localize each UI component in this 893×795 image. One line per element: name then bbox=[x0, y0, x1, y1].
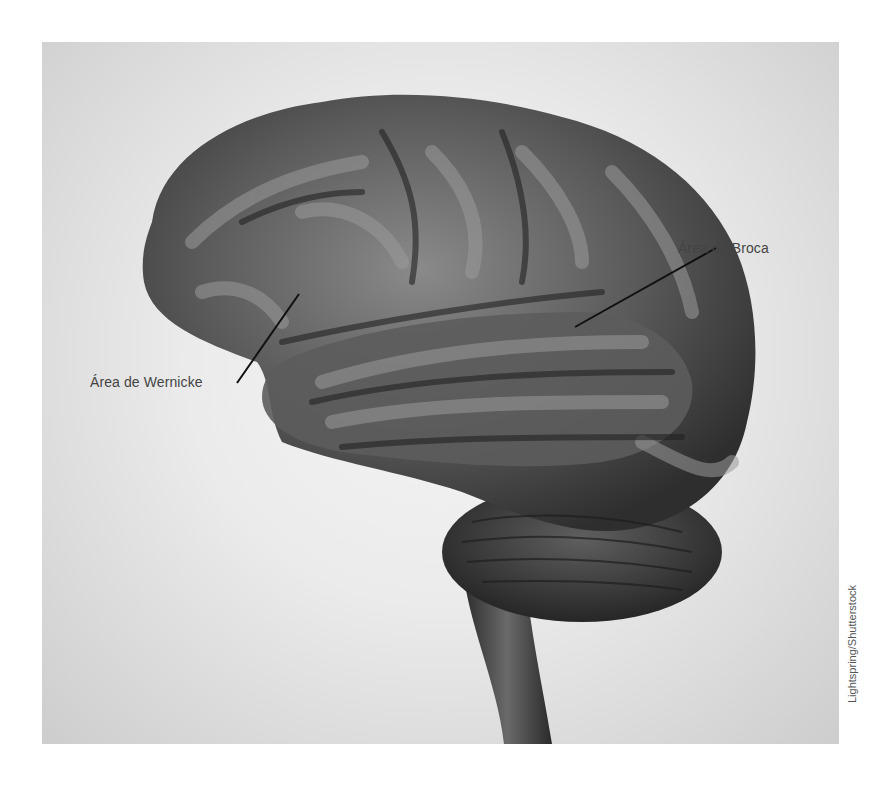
brain-illustration-panel bbox=[42, 42, 839, 744]
brain-illustration bbox=[42, 42, 839, 744]
broca-area-label: Área de Broca bbox=[678, 240, 769, 256]
photo-credit: Lightspring/Shutterstock bbox=[846, 585, 858, 703]
wernicke-area-label: Área de Wernicke bbox=[90, 374, 203, 390]
